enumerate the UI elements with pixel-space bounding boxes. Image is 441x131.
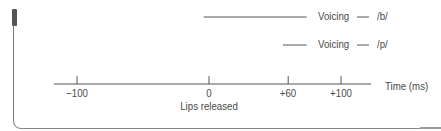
tick-label: +60: [280, 88, 296, 99]
tick-label: 0: [206, 88, 211, 99]
voicing-label: Voicing: [318, 39, 349, 50]
tick-label: −100: [66, 88, 88, 99]
voicing-label: Voicing: [318, 11, 349, 22]
tick-label: +100: [330, 88, 352, 99]
phoneme-label: /p/: [377, 39, 388, 50]
phoneme-label: /b/: [377, 11, 388, 22]
axis-label: Time (ms): [385, 81, 428, 92]
lips-released-label: Lips released: [180, 101, 238, 112]
